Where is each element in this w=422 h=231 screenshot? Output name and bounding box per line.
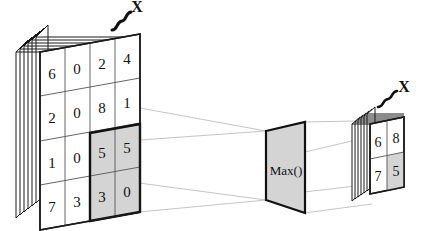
input-depth-label: X — [131, 0, 143, 15]
output-cell: 8 — [393, 131, 400, 146]
projection-lines — [139, 108, 372, 213]
input-cell: 0 — [73, 150, 81, 166]
output-depth-label: X — [398, 78, 410, 95]
input-feature-map: 6 0 2 4 2 0 8 1 1 0 5 5 7 3 3 0 — [16, 0, 143, 230]
input-cell: 7 — [48, 199, 56, 215]
input-cell: 2 — [98, 56, 106, 72]
input-cell: 0 — [73, 61, 81, 77]
input-cell: 5 — [98, 145, 106, 161]
input-cell: 3 — [73, 194, 81, 210]
input-cell: 4 — [123, 51, 131, 67]
output-cell: 7 — [375, 169, 382, 184]
input-cell: 1 — [48, 155, 56, 171]
brace-icon — [378, 91, 397, 107]
input-depth-annotation: X — [112, 0, 143, 30]
input-cell: 1 — [123, 95, 131, 111]
brace-icon — [112, 12, 131, 30]
output-depth-annotation: X — [378, 78, 410, 107]
output-cell: 6 — [375, 135, 382, 150]
input-cell: 5 — [123, 140, 131, 156]
max-operation-plane: Max() — [266, 122, 305, 213]
input-front-face: 6 0 2 4 2 0 8 1 1 0 5 5 7 3 3 0 — [40, 34, 140, 230]
diagram-canvas: 6 0 2 4 2 0 8 1 1 0 5 5 7 3 3 0 — [0, 0, 422, 231]
max-operation-label: Max() — [270, 163, 303, 178]
output-feature-map: 6 8 7 5 X — [352, 78, 410, 201]
input-cell: 6 — [48, 66, 56, 82]
output-front-face: 6 8 7 5 — [370, 117, 404, 194]
input-cell: 8 — [98, 100, 106, 116]
input-cell: 3 — [98, 189, 106, 205]
output-cell: 5 — [393, 164, 400, 179]
input-cell: 0 — [123, 184, 131, 200]
input-cell: 2 — [48, 110, 56, 126]
input-cell: 0 — [73, 105, 81, 121]
